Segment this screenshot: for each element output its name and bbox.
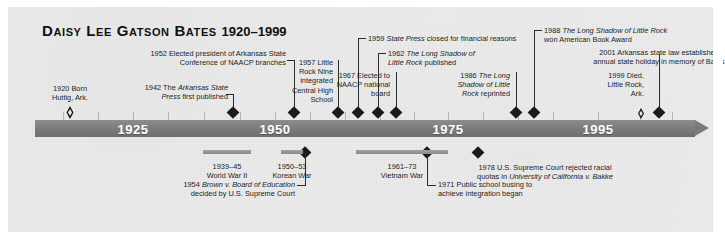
axis-tick (204, 112, 205, 120)
event-line: 1978 U.S. Supreme Court rejected racial (477, 163, 613, 172)
war-name: Vietnam War (381, 171, 423, 180)
event-line: Shadow of Little (440, 80, 510, 89)
axis-tick (275, 112, 276, 120)
war-name: World War II (207, 171, 248, 180)
war-label-vietnam: 1961–73 Vietnam War (381, 162, 423, 180)
page-margin-bottom (0, 232, 723, 238)
war-span-bar-wwii (203, 150, 251, 154)
event-label-1978: 1978 U.S. Supreme Court rejected racial … (477, 163, 613, 181)
war-range: 1939–45 (207, 162, 248, 171)
war-label-korean: 1950–53 Korean War (272, 162, 311, 180)
axis-tick (345, 112, 346, 120)
event-line: decided by U.S. Supreme Court (155, 189, 295, 198)
event-line: 2001 Arkansas state law established (593, 48, 724, 57)
event-label-1962: 1962 The Long Shadow of Little Rock publ… (388, 49, 475, 67)
event-line: Little Rock published (388, 58, 475, 67)
leader-elbow-1959 (358, 38, 366, 39)
event-label-1952: 1952 Elected president of Arkansas State… (140, 49, 286, 67)
event-line: 1999 Died, (592, 71, 644, 80)
leader-line-1942 (233, 94, 234, 108)
decade-label-1975: 1975 (433, 122, 464, 137)
page-margin-right (713, 0, 723, 238)
event-label-1971: 1971 Public school busing to achieve int… (438, 180, 532, 198)
event-line: Little Rock, (592, 80, 644, 89)
event-line: won American Book Award (544, 35, 667, 44)
event-line: board (318, 89, 390, 98)
event-label-2001: 2001 Arkansas state law established annu… (593, 48, 724, 66)
event-line: 1957 Little (283, 58, 333, 67)
axis-tick (672, 112, 673, 120)
event-line: 1967 Elected to (318, 71, 390, 80)
marker-diamond-1962 (372, 106, 385, 119)
leader-elbow-1971 (427, 185, 436, 186)
event-label-1954: 1954 Brown v. Board of Education decided… (155, 180, 295, 198)
marker-diamond-1967 (390, 106, 403, 119)
decade-label-1950: 1950 (260, 122, 291, 137)
timeline-arrow-icon (695, 120, 709, 136)
event-label-1959: 1959 State Press closed for financial re… (368, 34, 516, 43)
marker-diamond-2001 (653, 106, 666, 119)
axis-tick (98, 112, 99, 120)
decade-label-1995: 1995 (583, 122, 614, 137)
event-line: 1986 The Long (440, 71, 510, 80)
leader-line-1971 (427, 152, 428, 185)
axis-tick (598, 112, 599, 120)
event-label-1920: 1920 Born Huttig, Ark. (52, 84, 88, 102)
axis-tick (553, 112, 554, 120)
event-line: Rock reprinted (440, 89, 510, 98)
event-line: quotas in University of California v. Ba… (477, 172, 613, 181)
title-name: Daisy Lee Gatson Bates (42, 22, 217, 39)
war-range: 1961–73 (381, 162, 423, 171)
leader-line-1988 (534, 30, 535, 108)
event-line: Conference of NAACP branches (140, 58, 286, 67)
page-margin-top (0, 0, 723, 7)
axis-tick (414, 112, 415, 120)
leader-line-1986 (516, 72, 517, 108)
axis-tick (483, 112, 484, 120)
marker-diamond-1986 (510, 106, 523, 119)
leader-elbow-1962 (378, 53, 386, 54)
event-line: 1920 Born (52, 84, 88, 93)
marker-diamond-1978 (472, 146, 485, 159)
war-range: 1950–53 (272, 162, 311, 171)
leader-line-1967 (396, 72, 397, 108)
marker-hollow-diamond-1920 (65, 106, 76, 119)
page-margin-left (0, 0, 8, 238)
event-label-1967: 1967 Elected to NAACP national board (318, 71, 390, 99)
event-line: 1988 The Long Shadow of Little Rock (544, 26, 667, 35)
marker-diamond-1959 (352, 106, 365, 119)
axis-tick (133, 112, 134, 120)
war-span-bar-vietnam (356, 150, 448, 154)
war-name: Korean War (272, 171, 311, 180)
marker-diamond-1942 (227, 106, 240, 119)
event-label-1988: 1988 The Long Shadow of Little Rock won … (544, 26, 667, 44)
page-title: Daisy Lee Gatson Bates 1920–1999 (42, 22, 287, 39)
leader-elbow-1954 (297, 185, 306, 186)
event-line: 1952 Elected president of Arkansas State (140, 49, 286, 58)
event-line: 1954 Brown v. Board of Education (155, 180, 295, 189)
axis-tick (168, 112, 169, 120)
war-label-wwii: 1939–45 World War II (207, 162, 248, 180)
event-line: 1942 The Arkansas State (110, 83, 228, 92)
axis-tick (310, 112, 311, 120)
event-line: Huttig, Ark. (52, 93, 88, 102)
event-line: achieve integration began (438, 189, 532, 198)
event-line: NAACP national (318, 80, 390, 89)
leader-elbow-1988 (534, 30, 542, 31)
event-line: Press first published (110, 92, 228, 101)
decade-label-1925: 1925 (118, 122, 149, 137)
title-years: 1920–1999 (222, 24, 287, 39)
axis-tick (240, 112, 241, 120)
event-label-1999: 1999 Died, Little Rock, Ark. (592, 71, 644, 99)
event-line: annual state holiday in memory of Bates (593, 57, 724, 66)
axis-tick (448, 112, 449, 120)
marker-diamond-1988 (528, 106, 541, 119)
marker-hollow-diamond-1999 (637, 108, 646, 119)
war-span-bar-korean (281, 150, 303, 154)
event-line: 1959 State Press closed for financial re… (368, 34, 516, 43)
marker-diamond-1952 (288, 106, 301, 119)
event-label-1942: 1942 The Arkansas State Press first publ… (110, 83, 228, 101)
event-label-1986: 1986 The Long Shadow of Little Rock repr… (440, 71, 510, 99)
event-line: 1962 The Long Shadow of (388, 49, 475, 58)
marker-diamond-1957 (332, 106, 345, 119)
